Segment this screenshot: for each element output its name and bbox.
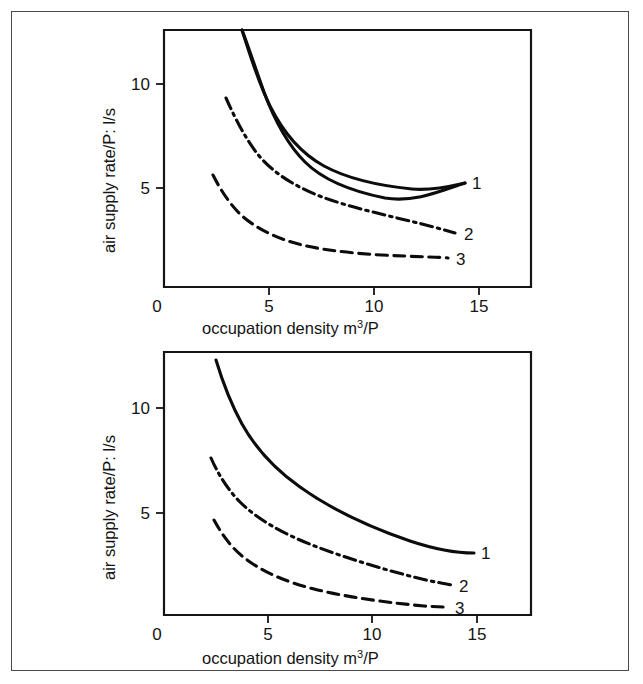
figure-page: 10 5 0 5 10 15 air supply rate/P: l/s oc… xyxy=(0,0,643,684)
bottom-chart-curve-2 xyxy=(211,458,452,585)
top-chart-curve-3 xyxy=(213,175,448,258)
bottom-chart-curve-1 xyxy=(216,360,474,553)
top-chart-curve-label-3: 3 xyxy=(456,250,465,269)
top-chart-curve-1-path xyxy=(242,30,465,189)
charts-figure: 10 5 0 5 10 15 air supply rate/P: l/s oc… xyxy=(0,0,643,684)
bottom-chart-x-axis-title-tail: /P xyxy=(363,649,379,667)
top-chart-xtick-label-5: 5 xyxy=(264,297,273,316)
bottom-chart-y-axis-title: air supply rate/P: l/s xyxy=(100,435,118,580)
bottom-chart-xtick-label-0: 0 xyxy=(152,625,161,644)
top-chart-x-axis-title-tail: /P xyxy=(363,319,379,337)
top-chart-xtick-label-0: 0 xyxy=(152,297,161,316)
top-chart-x-axis-title-main: occupation density m xyxy=(202,319,357,337)
bottom-chart-x-axis-title-main: occupation density m xyxy=(202,649,357,667)
bottom-chart-x-axis-title: occupation density m3/P xyxy=(202,648,379,667)
top-chart-plot-frame xyxy=(164,30,531,287)
top-chart-ytick-label-5: 5 xyxy=(141,179,150,198)
top-chart-ytick-label-10: 10 xyxy=(131,75,150,94)
bottom-chart-ytick-label-5: 5 xyxy=(141,504,150,523)
top-chart-curve-label-1: 1 xyxy=(472,174,481,193)
top-chart-curve-2 xyxy=(226,98,455,233)
bottom-chart-curve-label-2: 2 xyxy=(459,577,468,596)
bottom-chart-curve-label-3: 3 xyxy=(455,599,464,618)
top-chart: 10 5 0 5 10 15 air supply rate/P: l/s oc… xyxy=(100,30,531,337)
top-chart-curve-label-2: 2 xyxy=(464,225,473,244)
bottom-chart-xtick-label-5: 5 xyxy=(263,625,272,644)
top-chart-x-axis-title: occupation density m3/P xyxy=(202,318,379,337)
bottom-chart-curve-3 xyxy=(214,520,448,607)
bottom-chart-xtick-label-10: 10 xyxy=(363,625,382,644)
bottom-chart-xtick-label-15: 15 xyxy=(468,625,487,644)
bottom-chart-curve-label-1: 1 xyxy=(481,544,490,563)
top-chart-xtick-label-15: 15 xyxy=(470,297,489,316)
top-chart-y-axis-title: air supply rate/P: l/s xyxy=(100,108,118,253)
bottom-chart: 10 5 0 5 10 15 air supply rate/P: l/s oc… xyxy=(100,352,531,667)
bottom-chart-ytick-label-10: 10 xyxy=(131,399,150,418)
bottom-chart-plot-frame xyxy=(164,352,531,615)
top-chart-xtick-label-10: 10 xyxy=(365,297,384,316)
